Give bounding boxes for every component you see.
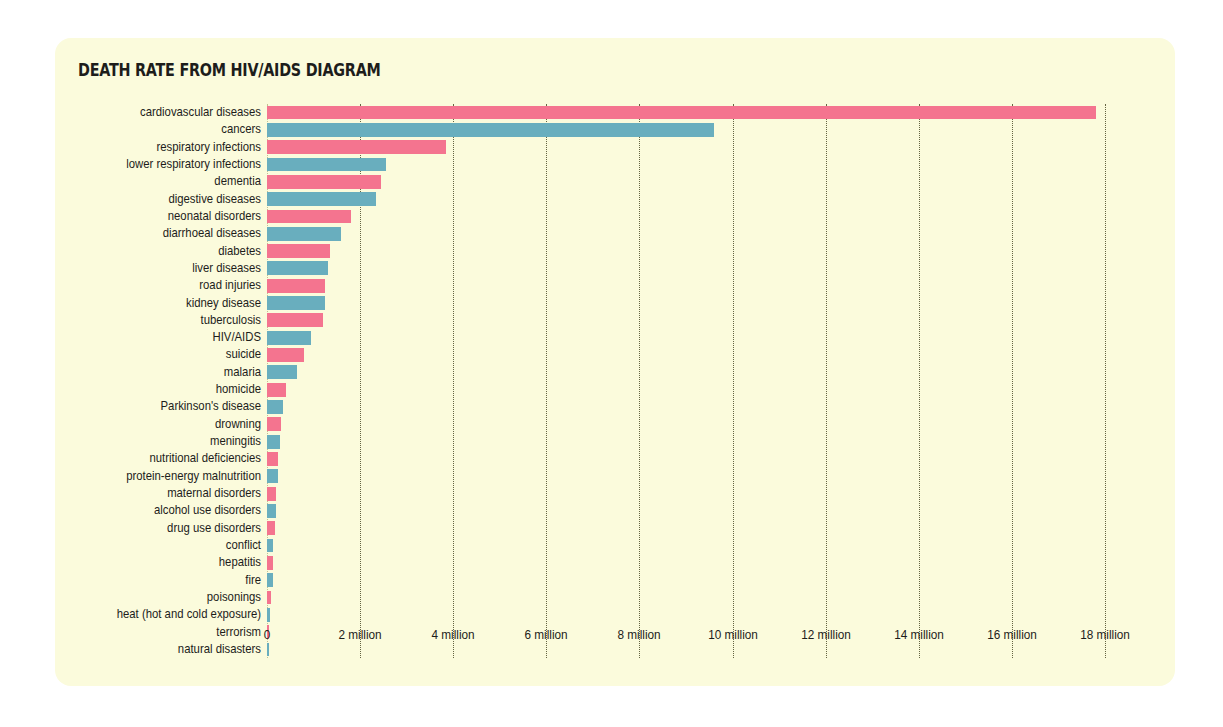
bar-label-natural-disasters: natural disasters <box>69 641 261 658</box>
bar-label-tuberculosis: tuberculosis <box>69 312 261 329</box>
bar-row: alcohol use disorders <box>55 502 1175 519</box>
bar-row: cardiovascular diseases <box>55 104 1175 121</box>
bar-row: hepatitis <box>55 554 1175 571</box>
bar-diabetes <box>267 244 330 258</box>
bar-label-alcohol-use-disorders: alcohol use disorders <box>69 502 261 519</box>
bar-chart: cardiovascular diseasescancersrespirator… <box>55 38 1175 686</box>
bar-road-injuries <box>267 279 325 293</box>
bar-row: malaria <box>55 364 1175 381</box>
bar-digestive-diseases <box>267 192 376 206</box>
bar-row: natural disasters <box>55 641 1175 658</box>
bar-nutritional-deficiencies <box>267 452 278 466</box>
bar-label-cardiovascular-diseases: cardiovascular diseases <box>69 104 261 121</box>
bar-row: meningitis <box>55 433 1175 450</box>
bar-label-protein-energy-malnutrition: protein-energy malnutrition <box>69 468 261 485</box>
x-tick-label-12000000: 12 million <box>801 628 851 642</box>
bar-row: heat (hot and cold exposure) <box>55 606 1175 623</box>
bar-label-kidney-disease: kidney disease <box>69 295 261 312</box>
bar-label-diabetes: diabetes <box>69 243 261 260</box>
bar-label-terrorism: terrorism <box>69 624 261 641</box>
bar-label-diarrhoeal-diseases: diarrhoeal diseases <box>69 225 261 242</box>
bar-row: poisonings <box>55 589 1175 606</box>
x-tick-label-14000000: 14 million <box>894 628 944 642</box>
x-tick-label-2000000: 2 million <box>339 628 382 642</box>
bar-liver-diseases <box>267 261 328 275</box>
bar-row: liver diseases <box>55 260 1175 277</box>
bar-natural-disasters <box>267 643 269 657</box>
screenshot-root: DEATH RATE FROM HIV/AIDS DIAGRAM cardiov… <box>0 0 1223 727</box>
bar-row: homicide <box>55 381 1175 398</box>
bar-label-maternal-disorders: maternal disorders <box>69 485 261 502</box>
bar-row: respiratory infections <box>55 139 1175 156</box>
chart-panel: DEATH RATE FROM HIV/AIDS DIAGRAM cardiov… <box>55 38 1175 686</box>
bar-row: maternal disorders <box>55 485 1175 502</box>
bar-poisonings <box>267 591 271 605</box>
bar-label-poisonings: poisonings <box>69 589 261 606</box>
bar-label-respiratory-infections: respiratory infections <box>69 139 261 156</box>
bar-label-conflict: conflict <box>69 537 261 554</box>
bar-label-heat-hot-and-cold-exposure: heat (hot and cold exposure) <box>69 606 261 623</box>
bar-label-drowning: drowning <box>69 416 261 433</box>
bar-neonatal-disorders <box>267 210 351 224</box>
bar-row: nutritional deficiencies <box>55 450 1175 467</box>
bar-row: cancers <box>55 121 1175 138</box>
bar-label-nutritional-deficiencies: nutritional deficiencies <box>69 450 261 467</box>
bar-protein-energy-malnutrition <box>267 469 278 483</box>
bar-row: diabetes <box>55 243 1175 260</box>
bar-label-malaria: malaria <box>69 364 261 381</box>
bar-hiv-aids <box>267 331 311 345</box>
bar-drug-use-disorders <box>267 521 275 535</box>
bar-label-liver-diseases: liver diseases <box>69 260 261 277</box>
bar-kidney-disease <box>267 296 325 310</box>
bar-tuberculosis <box>267 313 323 327</box>
bar-label-meningitis: meningitis <box>69 433 261 450</box>
x-tick-label-0: 0 <box>264 628 271 642</box>
bar-parkinson-s-disease <box>267 400 283 414</box>
bar-heat-hot-and-cold-exposure <box>267 608 270 622</box>
bar-row: kidney disease <box>55 295 1175 312</box>
x-tick-label-16000000: 16 million <box>987 628 1037 642</box>
bar-diarrhoeal-diseases <box>267 227 341 241</box>
bar-row: Parkinson's disease <box>55 398 1175 415</box>
bar-label-lower-respiratory-infections: lower respiratory infections <box>69 156 261 173</box>
bar-drowning <box>267 417 281 431</box>
bar-label-digestive-diseases: digestive diseases <box>69 191 261 208</box>
bar-row: neonatal disorders <box>55 208 1175 225</box>
bar-row: diarrhoeal diseases <box>55 225 1175 242</box>
bar-respiratory-infections <box>267 140 446 154</box>
bar-row: conflict <box>55 537 1175 554</box>
x-tick-label-18000000: 18 million <box>1080 628 1130 642</box>
bar-homicide <box>267 383 286 397</box>
x-tick-label-8000000: 8 million <box>618 628 661 642</box>
bar-maternal-disorders <box>267 487 276 501</box>
bar-label-cancers: cancers <box>69 121 261 138</box>
bar-label-drug-use-disorders: drug use disorders <box>69 520 261 537</box>
bar-hepatitis <box>267 556 273 570</box>
bar-cancers <box>267 123 714 137</box>
bar-label-neonatal-disorders: neonatal disorders <box>69 208 261 225</box>
bar-row: road injuries <box>55 277 1175 294</box>
bar-row: drowning <box>55 416 1175 433</box>
bar-row: dementia <box>55 173 1175 190</box>
bar-label-road-injuries: road injuries <box>69 277 261 294</box>
x-tick-label-6000000: 6 million <box>525 628 568 642</box>
bar-lower-respiratory-infections <box>267 158 386 172</box>
bar-alcohol-use-disorders <box>267 504 276 518</box>
bar-label-homicide: homicide <box>69 381 261 398</box>
bar-row: lower respiratory infections <box>55 156 1175 173</box>
bar-suicide <box>267 348 304 362</box>
bar-row: drug use disorders <box>55 520 1175 537</box>
bar-meningitis <box>267 435 280 449</box>
bar-label-fire: fire <box>69 572 261 589</box>
bar-row: HIV/AIDS <box>55 329 1175 346</box>
bar-row: suicide <box>55 346 1175 363</box>
bar-malaria <box>267 365 297 379</box>
bar-label-hiv-aids: HIV/AIDS <box>69 329 261 346</box>
bar-label-parkinson-s-disease: Parkinson's disease <box>69 398 261 415</box>
bar-label-hepatitis: hepatitis <box>69 554 261 571</box>
bar-row: digestive diseases <box>55 191 1175 208</box>
bar-row: tuberculosis <box>55 312 1175 329</box>
bar-row: protein-energy malnutrition <box>55 468 1175 485</box>
bar-fire <box>267 573 273 587</box>
x-tick-label-4000000: 4 million <box>432 628 475 642</box>
